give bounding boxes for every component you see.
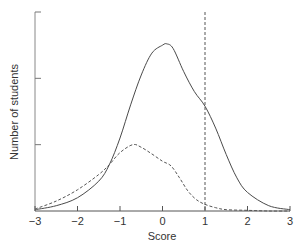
x-tick-label: 3 — [287, 215, 293, 227]
x-tick-label: 2 — [244, 215, 250, 227]
x-axis-label: Score — [148, 230, 177, 242]
x-tick-label: 0 — [159, 215, 165, 227]
dashed-curve — [35, 144, 290, 211]
line-chart: −3−2−10123 Score Number of students — [0, 0, 303, 249]
x-tick-label: 1 — [202, 215, 208, 227]
x-ticks: −3−2−10123 — [29, 206, 293, 227]
x-tick-label: −2 — [71, 215, 84, 227]
x-tick-label: −3 — [29, 215, 42, 227]
plot-area — [35, 12, 290, 211]
y-ticks — [35, 12, 41, 145]
x-tick-label: −1 — [114, 215, 127, 227]
solid-curve — [35, 44, 290, 210]
y-axis-label: Number of students — [8, 64, 20, 160]
